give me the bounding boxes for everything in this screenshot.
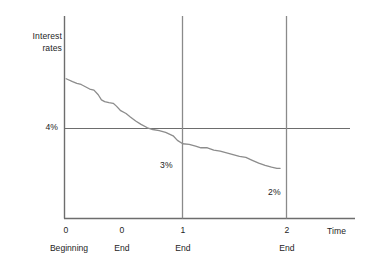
y-axis-title: Interest rates xyxy=(0,30,62,54)
plot-area xyxy=(64,16,355,219)
x-axis-title: Time xyxy=(327,226,346,237)
x-tick-label-2-end: 2 xyxy=(252,225,322,235)
annotation-2-percent: 2% xyxy=(268,187,281,198)
y-tick-label-4-percent: 4% xyxy=(30,122,58,133)
x-sublabel-period-1-end: End xyxy=(138,243,228,253)
annotation-3-percent: 3% xyxy=(160,160,173,171)
y-axis-title-line-2: rates xyxy=(0,42,62,54)
interest-rates-chart: Interest rates 4% 3% 2% Time 0 0 1 2 Beg… xyxy=(0,0,381,273)
x-tick-label-0-end: 0 xyxy=(87,225,157,235)
x-tick-label-1-end: 1 xyxy=(148,225,218,235)
y-axis-title-line-1: Interest xyxy=(0,30,62,42)
interest-rate-curve xyxy=(66,79,280,169)
x-sublabel-period-2-end: End xyxy=(242,243,332,253)
